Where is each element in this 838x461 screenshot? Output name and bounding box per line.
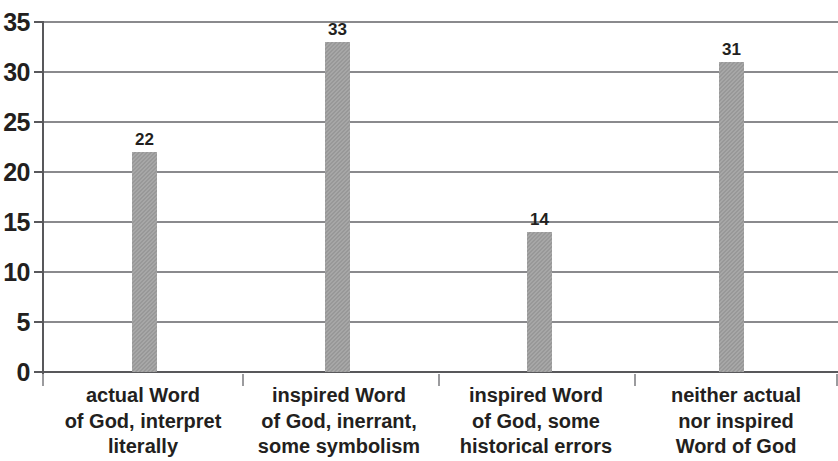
category-label-1: actual Word of God, interpret literally xyxy=(44,383,242,460)
ytick-label-30: 30 xyxy=(0,60,30,85)
category-label-2-line-2: of God, inerrant, xyxy=(240,409,438,435)
ytick-label-25: 25 xyxy=(0,110,30,135)
category-label-3: inspired Word of God, some historical er… xyxy=(438,383,634,460)
category-label-1-line-3: literally xyxy=(44,434,242,460)
category-label-2-line-1: inspired Word xyxy=(240,383,438,409)
ytick-mark-10 xyxy=(34,271,44,273)
y-axis-line xyxy=(42,22,44,382)
ytick-label-15: 15 xyxy=(0,210,30,235)
ytick-label-0: 0 xyxy=(0,360,30,385)
ytick-mark-35 xyxy=(34,21,44,23)
category-label-1-line-2: of God, interpret xyxy=(44,409,242,435)
category-label-4-line-1: neither actual xyxy=(636,383,836,409)
ytick-mark-30 xyxy=(34,71,44,73)
ytick-mark-20 xyxy=(34,171,44,173)
category-label-2-line-3: some symbolism xyxy=(240,434,438,460)
category-label-4-line-2: nor inspired xyxy=(636,409,836,435)
ytick-label-35: 35 xyxy=(0,10,30,35)
bar-inspired-word-historical-errors xyxy=(527,232,552,372)
category-label-4-line-3: Word of God xyxy=(636,434,836,460)
ytick-label-20: 20 xyxy=(0,160,30,185)
bar-value-label-1: 22 xyxy=(114,131,175,148)
bar-value-label-2: 33 xyxy=(307,21,368,38)
category-label-4: neither actual nor inspired Word of God xyxy=(636,383,836,460)
bar-value-label-3: 14 xyxy=(509,211,570,228)
bar-neither-actual-nor-inspired xyxy=(719,62,744,372)
category-label-3-line-3: historical errors xyxy=(438,434,634,460)
ytick-mark-5 xyxy=(34,321,44,323)
ytick-mark-15 xyxy=(34,221,44,223)
category-label-1-line-1: actual Word xyxy=(44,383,242,409)
ytick-label-10: 10 xyxy=(0,260,30,285)
bar-chart: 35 30 25 20 15 10 5 0 22 33 14 31 actual… xyxy=(0,0,838,461)
ytick-mark-0 xyxy=(34,371,44,373)
category-label-3-line-2: of God, some xyxy=(438,409,634,435)
ytick-label-5: 5 xyxy=(0,310,30,335)
category-label-3-line-1: inspired Word xyxy=(438,383,634,409)
bar-inspired-word-inerrant xyxy=(325,42,350,372)
gridline-35 xyxy=(42,21,838,23)
ytick-mark-25 xyxy=(34,121,44,123)
bar-actual-word-of-god xyxy=(132,152,157,372)
bar-value-label-4: 31 xyxy=(701,41,762,58)
category-label-2: inspired Word of God, inerrant, some sym… xyxy=(240,383,438,460)
